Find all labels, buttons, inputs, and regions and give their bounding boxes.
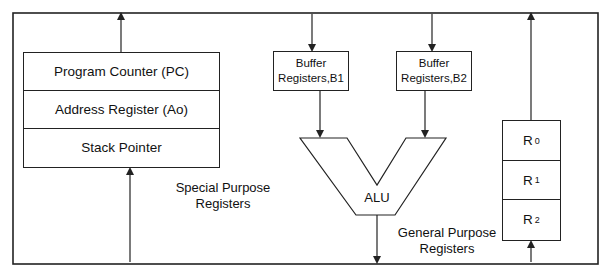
general-purpose-caption-line2: Registers <box>392 241 502 257</box>
buffer-register-b2: Buffer Registers,B2 <box>396 51 472 91</box>
stack-pointer-label: Stack Pointer <box>81 140 161 155</box>
general-purpose-caption: General Purpose Registers <box>392 225 502 257</box>
program-counter-register: Program Counter (PC) <box>24 53 219 91</box>
r1-index: 1 <box>535 175 540 185</box>
special-purpose-caption: Special Purpose Registers <box>168 180 278 212</box>
buffer-register-b1: Buffer Registers,B1 <box>273 51 349 91</box>
alu-label: ALU <box>357 190 397 206</box>
special-purpose-register-stack: Program Counter (PC) Address Register (A… <box>23 52 220 168</box>
address-register-label: Address Register (Ao) <box>55 102 188 117</box>
address-register: Address Register (Ao) <box>24 91 219 129</box>
r2-name: R <box>523 212 533 227</box>
special-purpose-caption-line2: Registers <box>168 196 278 212</box>
r0-name: R <box>523 133 533 148</box>
buffer-b2-line1: Buffer <box>419 56 449 71</box>
r2-index: 2 <box>535 215 540 225</box>
special-purpose-caption-line1: Special Purpose <box>168 180 278 196</box>
r0-index: 0 <box>535 136 540 146</box>
buffer-b1-line2: Registers,B1 <box>278 71 344 86</box>
register-r1: R1 <box>503 161 560 200</box>
program-counter-label: Program Counter (PC) <box>54 64 189 79</box>
r1-name: R <box>523 173 533 188</box>
register-r2: R2 <box>503 200 560 239</box>
general-purpose-caption-line1: General Purpose <box>392 225 502 241</box>
buffer-b1-line1: Buffer <box>296 56 326 71</box>
buffer-b2-line2: Registers,B2 <box>401 71 467 86</box>
register-r0: R0 <box>503 121 560 161</box>
general-purpose-register-stack: R0 R1 R2 <box>502 120 561 241</box>
stack-pointer-register: Stack Pointer <box>24 129 219 166</box>
